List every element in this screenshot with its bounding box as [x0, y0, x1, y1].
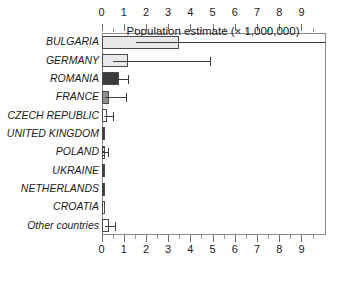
x-tick-bottom-minor — [268, 235, 269, 239]
category-label: FRANCE — [56, 91, 99, 102]
error-bar-line — [136, 42, 325, 43]
x-tick-label-top: 8 — [269, 7, 289, 18]
chart-row: CZECH REPUBLIC — [0, 106, 353, 124]
category-label: CZECH REPUBLIC — [7, 110, 99, 121]
x-tick-bottom-minor — [246, 235, 247, 239]
x-tick-label-bottom: 4 — [180, 244, 200, 255]
x-tick-bottom-major — [213, 235, 214, 242]
bar — [102, 201, 105, 214]
x-tick-bottom-minor — [135, 235, 136, 239]
x-tick-label-top: 4 — [180, 7, 200, 18]
x-tick-label-bottom: 5 — [203, 244, 223, 255]
category-label: UKRAINE — [52, 165, 99, 176]
x-tick-label-bottom: 1 — [114, 244, 134, 255]
chart-row: NETHERLANDS — [0, 180, 353, 198]
bar — [102, 183, 105, 196]
category-label: UNITED KINGDOM — [7, 128, 99, 139]
category-label: Other countries — [27, 220, 99, 231]
x-tick-label-bottom: 9 — [291, 244, 311, 255]
x-tick-bottom-major — [279, 235, 280, 242]
chart-row: POLAND — [0, 143, 353, 161]
error-bar-cap — [126, 93, 127, 102]
x-tick-label-top: 9 — [291, 7, 311, 18]
x-tick-bottom-minor — [313, 235, 314, 239]
error-bar-cap — [113, 112, 114, 121]
chart-row: Other countries — [0, 217, 353, 235]
x-tick-label-bottom: 0 — [92, 244, 112, 255]
x-tick-label-bottom: 3 — [158, 244, 178, 255]
x-tick-bottom-major — [190, 235, 191, 242]
x-tick-label-bottom: 6 — [225, 244, 245, 255]
error-bar-cap — [108, 148, 109, 157]
chart-row: CROATIA — [0, 198, 353, 216]
x-tick-label-top: 3 — [158, 7, 178, 18]
x-tick-bottom-minor — [157, 235, 158, 239]
chart-row: UKRAINE — [0, 162, 353, 180]
x-tick-bottom-major — [235, 235, 236, 242]
x-tick-label-bottom: 2 — [136, 244, 156, 255]
category-label: BULGARIA — [46, 36, 99, 47]
x-tick-label-top: 5 — [203, 7, 223, 18]
error-bar-cap — [210, 57, 211, 66]
x-tick-bottom-major — [301, 235, 302, 242]
chart-row: FRANCE — [0, 88, 353, 106]
chart-row: GERMANY — [0, 51, 353, 69]
x-axis-bottom: 0123456789 — [0, 235, 353, 289]
x-tick-bottom-major — [257, 235, 258, 242]
x-tick-bottom-major — [146, 235, 147, 242]
x-tick-bottom-minor — [224, 235, 225, 239]
category-label: POLAND — [56, 146, 99, 157]
x-tick-label-top: 1 — [114, 7, 134, 18]
error-bar-cap — [128, 75, 129, 84]
category-label: NETHERLANDS — [21, 183, 99, 194]
x-tick-bottom-minor — [179, 235, 180, 239]
x-tick-bottom-major — [102, 235, 103, 242]
chart-row: BULGARIA — [0, 33, 353, 51]
x-tick-bottom-minor — [201, 235, 202, 239]
x-tick-bottom-major — [124, 235, 125, 242]
x-tick-label-top: 7 — [247, 7, 267, 18]
chart-row: UNITED KINGDOM — [0, 125, 353, 143]
x-tick-label-top: 0 — [92, 7, 112, 18]
chart-row: ROMANIA — [0, 70, 353, 88]
category-label: CROATIA — [53, 201, 99, 212]
x-tick-label-bottom: 8 — [269, 244, 289, 255]
category-label: ROMANIA — [50, 73, 99, 84]
category-label: GERMANY — [46, 55, 99, 66]
error-bar-line — [105, 97, 126, 98]
x-tick-bottom-minor — [290, 235, 291, 239]
error-bar-cap — [115, 222, 116, 231]
bar — [102, 127, 106, 140]
bar — [102, 164, 105, 177]
population-estimate-bar-chart: 0123456789 0123456789 Population estimat… — [0, 0, 353, 289]
x-tick-label-top: 6 — [225, 7, 245, 18]
error-bar-line — [113, 61, 210, 62]
error-bar-line — [109, 79, 128, 80]
error-bar-line — [105, 226, 115, 227]
x-tick-bottom-major — [168, 235, 169, 242]
x-tick-bottom-minor — [113, 235, 114, 239]
x-tick-label-top: 2 — [136, 7, 156, 18]
error-bar-line — [104, 116, 113, 117]
x-tick-label-bottom: 7 — [247, 244, 267, 255]
